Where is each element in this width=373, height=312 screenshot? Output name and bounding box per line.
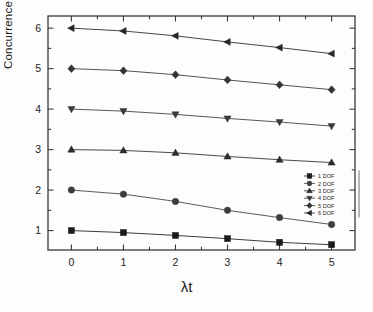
- data-point: [120, 28, 127, 35]
- data-point: [68, 65, 75, 73]
- data-point: [328, 124, 335, 130]
- x-tick-label: 5: [329, 256, 335, 268]
- data-point: [120, 191, 126, 197]
- x-tick-label: 4: [277, 256, 283, 268]
- legend-item-6-dof[interactable]: 6 DOF: [304, 210, 335, 216]
- data-series-layer: [68, 25, 336, 248]
- data-point: [68, 146, 75, 152]
- data-point: [224, 207, 230, 213]
- data-point: [120, 67, 127, 75]
- x-tick-label: 1: [121, 256, 127, 268]
- data-point: [328, 86, 335, 94]
- chart-figure: 123456 012345 1 DOF2 DOF3 DOF4 DOF5 DOF6…: [0, 0, 373, 312]
- x-axis-ticks: [71, 16, 331, 250]
- data-point: [68, 107, 75, 113]
- series-2-dof: [68, 187, 335, 228]
- data-point: [276, 214, 282, 220]
- series-6-dof: [68, 25, 335, 57]
- data-point: [276, 81, 283, 89]
- y-tick-label: 1: [35, 224, 41, 236]
- y-tick-label: 3: [35, 143, 41, 155]
- y-tick-label: 5: [35, 62, 41, 74]
- x-axis-tick-labels: 012345: [68, 256, 334, 268]
- legend-item-label: 3 DOF: [318, 188, 335, 194]
- y-tick-label: 4: [35, 103, 41, 115]
- x-tick-label: 3: [225, 256, 231, 268]
- legend-item-label: 5 DOF: [318, 203, 335, 209]
- legend-item-5-dof[interactable]: 5 DOF: [304, 203, 335, 209]
- legend-item-2-dof[interactable]: 2 DOF: [304, 181, 335, 187]
- data-point: [172, 32, 179, 39]
- legend-item-1-dof[interactable]: 1 DOF: [304, 173, 335, 179]
- series-3-dof: [68, 146, 335, 165]
- legend-item-4-dof[interactable]: 4 DOF: [304, 195, 335, 201]
- y-axis-tick-labels: 123456: [35, 22, 41, 236]
- data-point: [68, 25, 75, 32]
- series-5-dof: [68, 65, 335, 94]
- data-point: [120, 109, 127, 115]
- series-4-dof: [68, 107, 335, 130]
- data-point: [277, 239, 283, 245]
- data-point: [172, 71, 179, 79]
- data-point: [68, 187, 74, 193]
- chart-legend: 1 DOF2 DOF3 DOF4 DOF5 DOF6 DOF: [304, 171, 359, 218]
- data-point: [172, 232, 178, 238]
- plot-canvas: 123456 012345 1 DOF2 DOF3 DOF4 DOF5 DOF6…: [0, 0, 373, 312]
- data-point: [120, 230, 126, 236]
- x-axis-label-text: λt: [181, 278, 193, 295]
- legend-item-label: 6 DOF: [318, 210, 335, 216]
- data-point: [328, 159, 335, 165]
- x-axis-label: λt: [0, 278, 373, 295]
- data-point: [276, 44, 283, 51]
- data-point: [276, 156, 283, 162]
- x-tick-label: 0: [68, 256, 74, 268]
- x-tick-label: 2: [173, 256, 179, 268]
- data-point: [224, 76, 231, 84]
- legend-item-3-dof[interactable]: 3 DOF: [304, 188, 335, 194]
- data-point: [328, 50, 335, 57]
- data-point: [329, 242, 335, 248]
- data-point: [172, 149, 179, 155]
- series-1-dof: [68, 228, 334, 248]
- legend-item-label: 4 DOF: [318, 195, 335, 201]
- data-point: [328, 221, 334, 227]
- y-axis-label-text: Concurrence: [2, 1, 14, 69]
- y-tick-label: 6: [35, 22, 41, 34]
- data-point: [68, 228, 74, 234]
- data-point: [120, 147, 127, 153]
- data-point: [172, 198, 178, 204]
- y-tick-label: 2: [35, 184, 41, 196]
- legend-item-label: 2 DOF: [318, 181, 335, 187]
- data-point: [225, 236, 231, 242]
- legend-item-label: 1 DOF: [318, 173, 335, 179]
- data-point: [224, 38, 231, 45]
- y-axis-label: Concurrence: [0, 0, 18, 95]
